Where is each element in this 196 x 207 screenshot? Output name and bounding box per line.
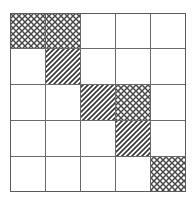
grid-cell-r3-c0: [10, 120, 45, 156]
grid-cell-r4-c0: [10, 156, 45, 192]
grid-cell-r0-c4: [151, 13, 186, 49]
grid-figure: [10, 13, 186, 192]
grid-cell-r3-c4: [151, 120, 186, 156]
grid-cell-r3-c1: [45, 120, 80, 156]
grid-cell-r0-c1: [45, 13, 80, 49]
grid-cell-r2-c0: [10, 85, 45, 121]
grid-cell-r1-c1: [45, 49, 80, 85]
grid-cell-r4-c1: [45, 156, 80, 192]
grid-cell-r2-c2: [80, 85, 115, 121]
grid-cell-r3-c2: [80, 120, 115, 156]
grid-cell-r1-c3: [116, 49, 151, 85]
grid-cell-r4-c4: [151, 156, 186, 192]
grid-cell-r1-c2: [80, 49, 115, 85]
grid-cell-r4-c2: [80, 156, 115, 192]
grid-cell-r1-c0: [10, 49, 45, 85]
grid-cell-r0-c2: [80, 13, 115, 49]
grid-cell-r3-c3: [116, 120, 151, 156]
grid-cell-r2-c4: [151, 85, 186, 121]
grid-cell-r0-c3: [116, 13, 151, 49]
grid-cell-r0-c0: [10, 13, 45, 49]
grid-cell-r4-c3: [116, 156, 151, 192]
grid-cell-layer: [10, 13, 186, 192]
grid-cell-r2-c1: [45, 85, 80, 121]
grid-cell-r1-c4: [151, 49, 186, 85]
grid-cell-r2-c3: [116, 85, 151, 121]
grid-svg: [10, 13, 186, 192]
